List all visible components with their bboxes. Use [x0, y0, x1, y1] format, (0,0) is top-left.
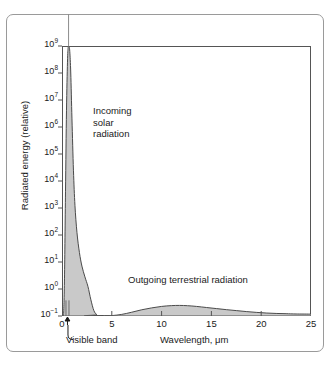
data-curves-group	[62, 45, 311, 318]
series-curve-line	[62, 45, 311, 318]
series-area-fill	[62, 45, 311, 318]
radiation-spectrum-figure: Radiated energy (relative) 10−1100101102…	[0, 0, 332, 367]
visible-band-arrow-icon	[65, 317, 70, 325]
visible-band-leader-line	[68, 325, 73, 340]
axis-ticks-group	[58, 46, 261, 316]
chart-drawing-layer	[0, 0, 332, 367]
